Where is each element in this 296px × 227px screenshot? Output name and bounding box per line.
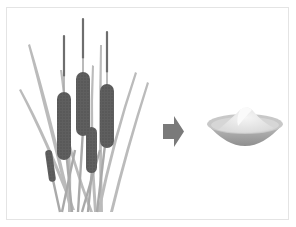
cattail-plants-icon (19, 19, 149, 212)
illustration (0, 0, 296, 227)
bowl-of-powder-icon (207, 107, 283, 146)
arrow-right-icon (163, 116, 184, 147)
